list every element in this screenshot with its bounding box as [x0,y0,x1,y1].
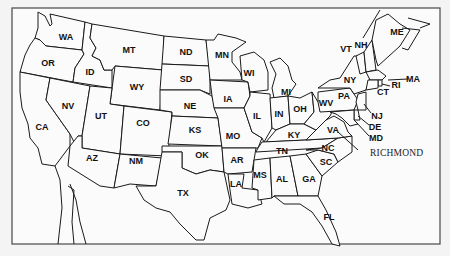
label-NM: NM [129,156,143,166]
label-NJ: NJ [371,111,383,121]
label-DE: DE [369,122,382,132]
label-WI: WI [244,68,255,78]
label-MD: MD [369,133,383,143]
label-MN: MN [215,50,229,60]
label-CA: CA [36,122,49,132]
label-KY: KY [288,130,301,140]
label-AR: AR [231,155,244,165]
label-MI: MI [281,87,291,97]
label-IN: IN [275,109,284,119]
label-ND: ND [180,47,193,57]
state-RI [378,80,382,86]
label-MT: MT [123,45,136,55]
label-MA: MA [406,74,420,84]
label-OR: OR [41,58,55,68]
label-SC: SC [320,157,333,167]
label-NV: NV [62,101,75,111]
label-FL: FL [324,212,335,222]
state-NJ [356,92,366,110]
label-VA: VA [327,125,339,135]
label-NE: NE [184,101,197,111]
label-VT: VT [340,44,352,54]
label-OH: OH [293,104,307,114]
label-RI: RI [392,80,401,90]
label-OK: OK [195,150,209,160]
label-AL: AL [276,174,288,184]
label-AZ: AZ [86,153,98,163]
label-ME: ME [390,27,404,37]
label-UT: UT [95,111,107,121]
label-CO: CO [136,118,150,128]
city-label-richmond: RICHMOND [370,148,423,158]
label-WV: WV [319,98,334,108]
label-GA: GA [302,174,316,184]
label-PA: PA [338,91,350,101]
label-LA: LA [230,179,242,189]
label-TX: TX [177,188,189,198]
label-NC: NC [322,143,335,153]
label-IA: IA [224,94,234,104]
label-MS: MS [253,170,267,180]
label-NH: NH [355,40,368,50]
label-ID: ID [86,67,96,77]
label-WY: WY [130,82,145,92]
label-WA: WA [59,32,74,42]
label-MO: MO [226,131,241,141]
label-SD: SD [180,74,193,84]
label-TN: TN [276,146,288,156]
label-CT: CT [377,87,389,97]
label-NY: NY [344,75,357,85]
label-KS: KS [189,125,202,135]
us-map: WA OR CA ID NV MT WY UT AZ CO NM ND SD N… [0,0,450,256]
label-IL: IL [253,111,262,121]
